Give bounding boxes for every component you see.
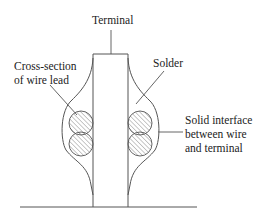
cross-section-label: Cross-section of wire lead <box>14 59 77 87</box>
cross-section-label-line-2: of wire lead <box>14 73 77 87</box>
solder-leader-line <box>136 71 164 104</box>
solder-label-text: Solder <box>153 56 183 70</box>
terminal-post <box>93 54 128 207</box>
right-wire-cross-section-lower <box>128 132 152 156</box>
interface-label-line-1: Solid interface <box>185 113 252 127</box>
interface-label: Solid interface between wire and termina… <box>185 113 252 155</box>
terminal-label: Terminal <box>92 13 133 27</box>
left-wire-cross-section-upper <box>69 111 93 135</box>
left-wire-cross-section-lower <box>69 132 93 156</box>
solder-label: Solder <box>153 56 183 70</box>
interface-label-line-3: and terminal <box>185 141 252 155</box>
solder-joint-diagram <box>0 0 262 220</box>
cross-section-leader-line <box>50 85 77 115</box>
terminal-label-text: Terminal <box>92 13 133 27</box>
interface-label-line-2: between wire <box>185 127 252 141</box>
right-wire-cross-section-upper <box>128 111 152 135</box>
cross-section-label-line-1: Cross-section <box>14 59 77 73</box>
